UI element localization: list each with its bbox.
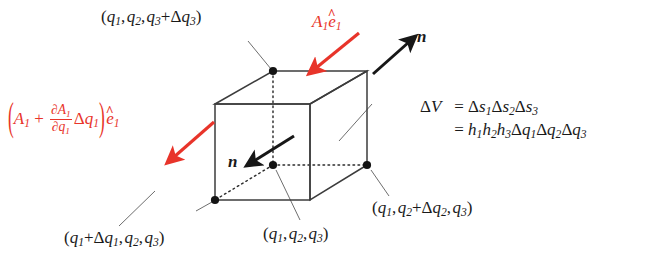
leader-center-vertex bbox=[276, 170, 300, 220]
label-vertex-bottom-back-right: (q1, q2+Δq2, q3) bbox=[372, 198, 472, 219]
right-face bbox=[310, 71, 367, 200]
label-vertex-center: (q1, q2, q3) bbox=[263, 224, 329, 245]
figure-canvas: (q1, q2, q3+Δq3) A1^e1 n ΔV = Δs1Δs2Δs3 … bbox=[0, 0, 659, 268]
leader-corner-tick bbox=[196, 202, 212, 211]
vertex-dot-top-back-left bbox=[269, 67, 277, 75]
label-normal-outer: n bbox=[417, 27, 426, 47]
label-vertex-top-back-left: (q1, q2, q3+Δq3) bbox=[101, 7, 201, 28]
red-arrow-influx bbox=[316, 33, 359, 68]
leader-bottom-back-right bbox=[371, 170, 389, 196]
vertex-dot-center bbox=[269, 161, 277, 169]
label-flux-out: (A1 + ∂A1∂q1Δq1) ^e1 bbox=[8, 103, 119, 136]
label-normal-inner: n bbox=[228, 152, 237, 172]
hidden-edge-diagonal-left bbox=[215, 165, 273, 200]
volume-line-2: = h1h2h3Δq1Δq2Δq3 bbox=[420, 119, 587, 142]
red-arrow-outflux bbox=[174, 122, 214, 157]
label-flux-in: A1^e1 bbox=[312, 12, 342, 33]
vertex-dot-front-bottom-left bbox=[211, 196, 219, 204]
label-volume-element: ΔV = Δs1Δs2Δs3 = h1h2h3Δq1Δq2Δq3 bbox=[420, 96, 587, 143]
leader-top-vertex bbox=[248, 41, 271, 69]
leader-lines bbox=[119, 41, 389, 226]
leader-front-bottom-left bbox=[119, 191, 155, 226]
vertex-dot-bottom-back-right bbox=[363, 161, 371, 169]
label-vertex-front-bottom-left: (q1+Δq1, q2, q3) bbox=[64, 228, 164, 249]
volume-line-1: ΔV = Δs1Δs2Δs3 bbox=[420, 96, 587, 119]
top-face bbox=[215, 71, 367, 104]
black-arrow-normal-inner bbox=[254, 136, 294, 161]
vertex-dots bbox=[211, 67, 371, 204]
black-arrow-normal-outer bbox=[373, 42, 409, 74]
